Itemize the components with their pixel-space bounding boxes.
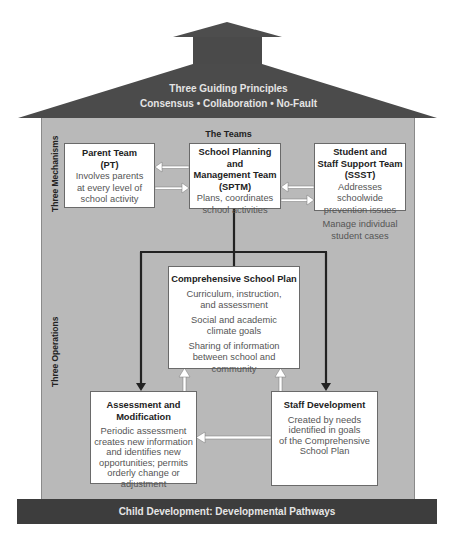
foundation-bar: Child Development: Developmental Pathway… xyxy=(17,499,437,524)
teams-header: The Teams xyxy=(0,129,457,139)
sptm-title: School Planning and Management Team (SPT… xyxy=(190,147,280,193)
label-three-operations: Three Operations xyxy=(50,317,60,387)
staff-development-description: Created by needs identified in goals of … xyxy=(272,415,377,457)
plan-title: Comprehensive School Plan xyxy=(169,274,299,286)
roof-title: Three Guiding Principles xyxy=(0,83,457,94)
parent-team-description: Involves parents at every level of schoo… xyxy=(65,171,154,206)
chimney xyxy=(193,37,262,65)
label-three-mechanisms: Three Mechanisms xyxy=(50,135,60,212)
staff-development-title: Staff Development xyxy=(272,400,377,412)
plan-item-curriculum: Curriculum, instruction, and assessment xyxy=(169,289,299,312)
sptm-box: School Planning and Management Team (SPT… xyxy=(189,143,281,209)
ssst-box: Student and Staff Support Team (SSST) Ad… xyxy=(314,143,406,211)
comprehensive-school-plan-box: Comprehensive School Plan Curriculum, in… xyxy=(168,266,300,369)
guiding-principles: Consensus • Collaboration • No-Fault xyxy=(0,98,457,109)
staff-development-box: Staff Development Created by needs ident… xyxy=(271,391,378,486)
plan-item-sharing: Sharing of information between school an… xyxy=(169,341,299,376)
assessment-description: Periodic assessment creates new informat… xyxy=(91,426,196,490)
parent-team-title: Parent Team (PT) xyxy=(65,148,154,171)
ssst-description: Addresses schoolwide prevention issues M… xyxy=(315,182,405,243)
parent-team-box: Parent Team (PT) Involves parents at eve… xyxy=(64,143,155,208)
ssst-title: Student and Staff Support Team (SSST) xyxy=(315,147,405,182)
chimney-cap xyxy=(173,22,282,37)
sptm-description: Plans, coordinates school activities xyxy=(190,193,280,216)
assessment-title: Assessment and Modification xyxy=(91,400,196,423)
assessment-modification-box: Assessment and Modification Periodic ass… xyxy=(90,391,197,484)
plan-item-climate: Social and academic climate goals xyxy=(169,315,299,338)
